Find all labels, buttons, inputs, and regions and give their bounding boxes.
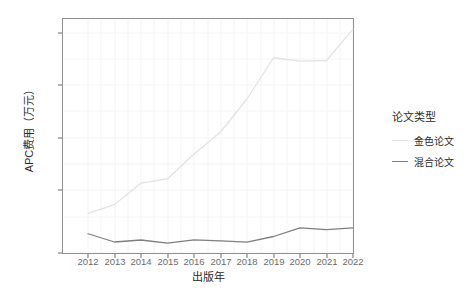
legend-item-gold[interactable]: 金色论文: [392, 133, 472, 148]
legend-item-hybrid[interactable]: 混合论文: [392, 154, 472, 169]
legend-item-label: 混合论文: [414, 154, 454, 169]
legend-title: 论文类型: [392, 108, 472, 124]
legend: 论文类型 金色论文 混合论文: [392, 108, 472, 175]
y-axis-title: APC费用（万元）: [20, 38, 36, 218]
legend-key-line-icon: [392, 135, 408, 146]
x-tick-label-2022: 2022: [333, 256, 373, 267]
x-axis-title: 出版年: [62, 268, 354, 284]
legend-key-line-icon: [392, 156, 408, 167]
legend-item-label: 金色论文: [414, 133, 454, 148]
chart-figure: 2000 1500 1000 500 0 2012 2013 2014 2015…: [0, 0, 475, 288]
y-axis-ticks: [58, 33, 62, 253]
